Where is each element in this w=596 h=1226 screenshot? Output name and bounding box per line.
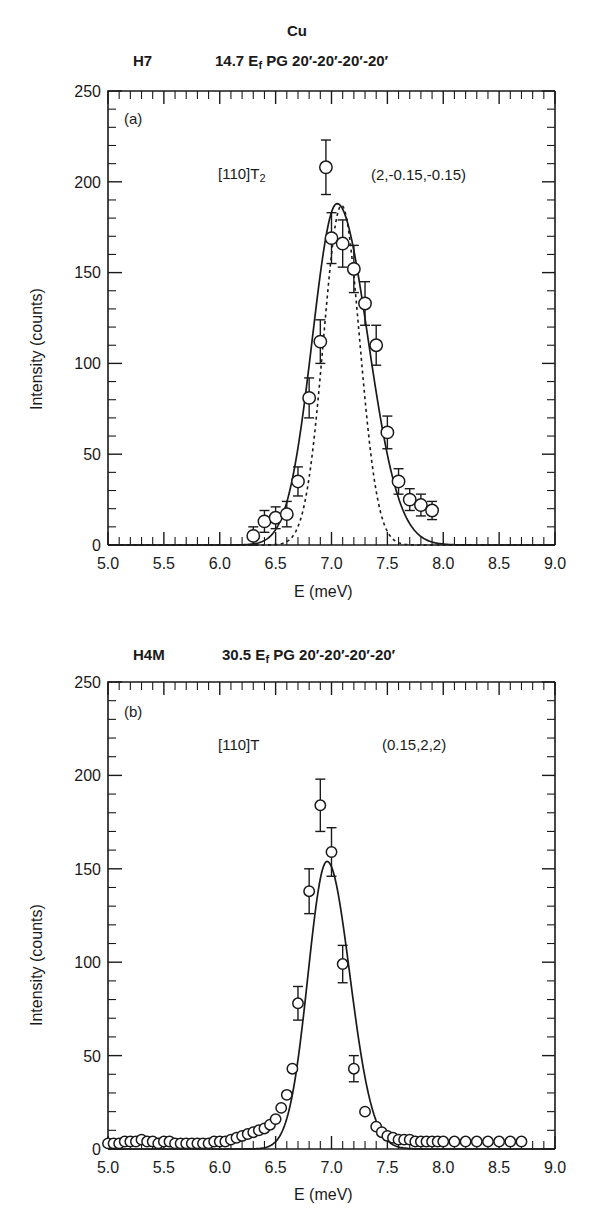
svg-text:250: 250: [74, 674, 101, 691]
data-point: [320, 140, 332, 194]
figure-root: Cu H7 14.7 Ef PG 20′-20′-20′-20′ (a) [11…: [0, 0, 596, 1226]
data-point: [287, 1063, 297, 1073]
svg-text:150: 150: [74, 264, 101, 281]
data-point: [516, 1136, 526, 1146]
data-point: [293, 986, 303, 1020]
data-point: [336, 220, 348, 267]
data-point: [304, 869, 314, 914]
svg-text:5.5: 5.5: [153, 555, 175, 572]
data-point: [483, 1136, 493, 1146]
svg-text:7.5: 7.5: [376, 1159, 398, 1176]
data-point: [415, 494, 427, 516]
data-point: [404, 489, 416, 511]
svg-text:8.0: 8.0: [432, 555, 454, 572]
svg-text:200: 200: [74, 174, 101, 191]
svg-text:5.0: 5.0: [97, 555, 119, 572]
data-point: [360, 1106, 370, 1116]
svg-text:250: 250: [74, 83, 101, 100]
svg-text:6.5: 6.5: [265, 1159, 287, 1176]
panel-a-plot: 0 50 100 150 200 250 5.05.56.06.57.07.58…: [0, 0, 596, 600]
panel-a: Cu H7 14.7 Ef PG 20′-20′-20′-20′ (a) [11…: [0, 0, 596, 600]
svg-text:9.0: 9.0: [544, 555, 566, 572]
data-point: [281, 501, 293, 526]
panel-b-datapoints: [103, 779, 527, 1148]
data-point: [326, 828, 336, 877]
data-point: [349, 1056, 359, 1082]
svg-text:6.0: 6.0: [209, 555, 231, 572]
data-point: [282, 1090, 292, 1100]
panel-b-plot: 0 50 100 150 200 250 5.05.56.06.57.07.58…: [0, 626, 596, 1226]
svg-text:6.0: 6.0: [209, 1159, 231, 1176]
data-point: [449, 1136, 459, 1146]
svg-text:0: 0: [92, 537, 101, 554]
data-point: [269, 507, 281, 529]
svg-text:150: 150: [74, 861, 101, 878]
data-point: [315, 779, 325, 831]
panel-b: H4M 30.5 Ef PG 20′-20′-20′-20′ (b) [110]…: [0, 626, 596, 1226]
data-point: [258, 510, 270, 532]
data-point: [438, 1136, 448, 1146]
svg-text:100: 100: [74, 954, 101, 971]
data-point: [314, 320, 326, 364]
data-point: [460, 1136, 470, 1146]
svg-text:7.0: 7.0: [320, 555, 342, 572]
svg-text:100: 100: [74, 355, 101, 372]
svg-text:6.5: 6.5: [265, 555, 287, 572]
data-point: [303, 378, 315, 418]
svg-text:200: 200: [74, 767, 101, 784]
svg-text:8.5: 8.5: [488, 555, 510, 572]
data-point: [381, 416, 393, 449]
panel-a-xaxis: 5.05.56.06.57.07.58.08.59.0: [97, 91, 566, 572]
svg-text:50: 50: [83, 446, 101, 463]
data-point: [472, 1136, 482, 1146]
data-point: [392, 469, 404, 494]
data-point: [494, 1136, 504, 1146]
svg-text:8.0: 8.0: [432, 1159, 454, 1176]
panel-b-xaxis: 5.05.56.06.57.07.58.08.59.0: [97, 682, 566, 1176]
panel-a-datapoints: [247, 140, 438, 545]
svg-text:8.5: 8.5: [488, 1159, 510, 1176]
data-point: [348, 245, 360, 292]
svg-text:50: 50: [83, 1048, 101, 1065]
data-point: [270, 1114, 280, 1124]
svg-text:7.5: 7.5: [376, 555, 398, 572]
svg-text:5.0: 5.0: [97, 1159, 119, 1176]
svg-text:7.0: 7.0: [320, 1159, 342, 1176]
data-point: [505, 1136, 515, 1146]
svg-text:0: 0: [92, 1141, 101, 1158]
data-point: [276, 1103, 286, 1113]
svg-text:5.5: 5.5: [153, 1159, 175, 1176]
svg-text:9.0: 9.0: [544, 1159, 566, 1176]
